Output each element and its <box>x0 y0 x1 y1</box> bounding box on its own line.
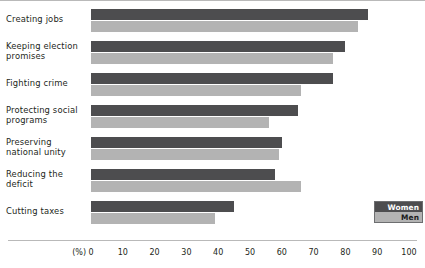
x-tick-label: 20 <box>150 248 160 257</box>
chart-legend: Women Men <box>374 201 423 223</box>
bar-chart: Creating jobsKeeping electionpromisesFig… <box>0 0 425 268</box>
x-tick-label: 0 <box>88 248 93 257</box>
bar-group: Reducing thedeficit <box>0 166 425 198</box>
bar-women <box>91 41 345 52</box>
category-label-line: promises <box>6 51 86 61</box>
x-tick-label: 90 <box>372 248 382 257</box>
x-tick-label: 70 <box>309 248 319 257</box>
category-label: Protecting socialprograms <box>6 105 86 125</box>
x-tick-label: 100 <box>401 248 416 257</box>
axis-divider <box>8 240 417 241</box>
legend-item-men: Men <box>375 212 422 222</box>
top-divider <box>0 0 425 1</box>
bar-men <box>91 53 333 64</box>
bars <box>91 137 282 160</box>
bar-group: Keeping electionpromises <box>0 38 425 70</box>
bar-men <box>91 21 358 32</box>
bar-group: Protecting socialprograms <box>0 102 425 134</box>
bar-group: Fighting crime <box>0 70 425 102</box>
bar-women <box>91 169 275 180</box>
bar-women <box>91 105 298 116</box>
bars <box>91 169 301 192</box>
category-label: Keeping electionpromises <box>6 41 86 61</box>
bar-group: Creating jobs <box>0 6 425 38</box>
bars <box>91 105 298 128</box>
legend-label-men: Men <box>375 213 422 222</box>
bar-men <box>91 181 301 192</box>
bar-women <box>91 201 234 212</box>
bar-men <box>91 85 301 96</box>
category-label-line: national unity <box>6 147 86 157</box>
legend-label-women: Women <box>375 203 422 212</box>
category-label-line: Fighting crime <box>6 78 86 88</box>
category-label-line: programs <box>6 115 86 125</box>
category-label-line: Reducing the <box>6 169 86 179</box>
category-label-line: Protecting social <box>6 105 86 115</box>
x-tick-label: 50 <box>245 248 255 257</box>
x-tick-label: 60 <box>277 248 287 257</box>
category-label: Fighting crime <box>6 78 86 88</box>
bar-women <box>91 137 282 148</box>
bars <box>91 201 234 224</box>
legend-item-women: Women <box>375 202 422 212</box>
bar-men <box>91 117 269 128</box>
bars <box>91 9 368 32</box>
x-axis: (%) 0102030405060708090100 <box>0 240 425 268</box>
bar-group: Preservingnational unity <box>0 134 425 166</box>
axis-unit-label: (%) <box>60 248 86 257</box>
category-label-line: Cutting taxes <box>6 206 86 216</box>
bars <box>91 41 345 64</box>
category-label: Cutting taxes <box>6 206 86 216</box>
bars <box>91 73 333 96</box>
category-label-line: Preserving <box>6 137 86 147</box>
bar-men <box>91 149 279 160</box>
x-tick-label: 80 <box>340 248 350 257</box>
category-label: Creating jobs <box>6 14 86 24</box>
bar-women <box>91 9 368 20</box>
category-label-line: Creating jobs <box>6 14 86 24</box>
x-tick-label: 10 <box>118 248 128 257</box>
bar-women <box>91 73 333 84</box>
plot-area: Creating jobsKeeping electionpromisesFig… <box>0 6 425 234</box>
bar-men <box>91 213 215 224</box>
category-label-line: deficit <box>6 179 86 189</box>
x-tick-label: 40 <box>213 248 223 257</box>
bar-group: Cutting taxes <box>0 198 425 230</box>
category-label-line: Keeping election <box>6 41 86 51</box>
x-tick-label: 30 <box>181 248 191 257</box>
category-label: Preservingnational unity <box>6 137 86 157</box>
category-label: Reducing thedeficit <box>6 169 86 189</box>
